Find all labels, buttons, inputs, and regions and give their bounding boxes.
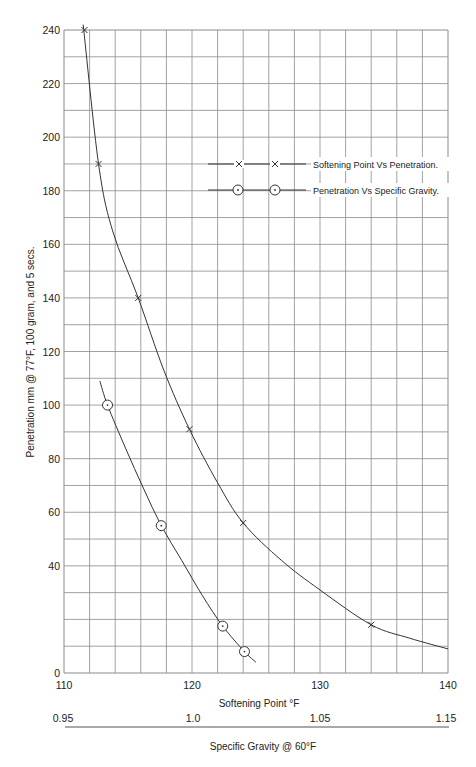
series-curve [100,381,256,662]
y-axis-ticks: 0406080100120140160180200220240 [42,24,60,679]
x2-tick-label: 1.15 [436,712,457,724]
y-tick-label: 220 [42,78,60,90]
x-axis-ticks: 110120130140 [56,679,457,691]
y-tick-label: 0 [54,667,60,679]
legend: Softening Point Vs Penetration. Penetrat… [204,152,453,202]
x-marker-icon [234,160,244,168]
y-tick-label: 80 [48,453,60,465]
series-penetration-vs-gravity [100,381,256,662]
x-tick-label: 130 [311,679,329,691]
x-tick-label: 120 [183,679,201,691]
y-tick-label: 60 [48,506,60,518]
x2-tick-label: 1.0 [186,712,201,724]
specific-gravity-axis: 0.951.01.051.15 [53,712,457,727]
y-tick-label: 180 [42,185,60,197]
x-marker-icon [186,426,192,432]
y-axis-title: Penetration mm @ 77°F, 100 gram, and 5 s… [25,247,36,458]
marker-dot [222,625,224,627]
x-tick-label: 110 [56,679,73,691]
marker-dot [244,651,246,653]
x2-axis-title: Specific Gravity @ 60°F [210,741,316,752]
chart: 0406080100120140160180200220240 11012013… [0,0,476,767]
circle-dot-marker-icon [270,185,280,195]
y-tick-label: 240 [42,24,60,36]
marker-dot [160,525,162,527]
marker-dot [107,404,109,406]
x2-tick-label: 1.05 [310,712,331,724]
y-tick-label: 140 [42,292,60,304]
circle-dot-marker-icon [233,185,243,195]
x-tick-label: 140 [439,679,457,691]
series-softening-vs-penetration [81,25,448,649]
legend-label-gravity: Penetration Vs Specific Gravity. [313,186,439,196]
series [81,25,448,663]
y-tick-label: 100 [42,399,60,411]
x2-tick-label: 0.95 [53,712,74,724]
x-axis-title: Softening Point °F [219,698,300,709]
grid [64,30,448,673]
y-tick-label: 120 [42,346,60,358]
legend-label-softening: Softening Point Vs Penetration. [313,160,438,170]
y-tick-label: 40 [48,560,60,572]
x-marker-icon [270,160,280,168]
y-tick-label: 160 [42,238,60,250]
y-tick-label: 200 [42,131,60,143]
series-curve [83,25,448,649]
